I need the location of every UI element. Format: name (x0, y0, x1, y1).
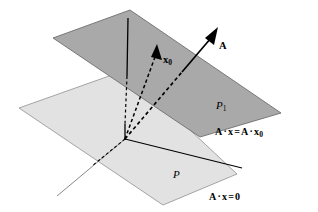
equation-term-zero: 0 (235, 191, 240, 202)
lower-plane-label: P (173, 169, 180, 180)
upper-plane-label-main: P (216, 99, 223, 111)
equation-equals-1: = (233, 126, 241, 137)
origin-point (124, 138, 126, 140)
equation-term-a2: A (241, 126, 248, 137)
equation-term-x2-sub: 0 (259, 130, 263, 139)
vector-x0-label-sub: 0 (168, 58, 172, 67)
figure-canvas (0, 0, 318, 212)
upper-plane-label: P1 (216, 100, 226, 112)
hyperplane-figure: x0 A P1 P A·x=A·x0 A·x=0 (0, 0, 318, 212)
vector-a-label-main: A (219, 40, 227, 51)
equation-equals-2: = (227, 191, 235, 202)
upper-plane-equation: A·x=A·x0 (215, 127, 263, 138)
upper-plane-label-sub: 1 (223, 104, 227, 113)
lower-plane-label-main: P (173, 168, 180, 180)
vector-x0-label: x0 (163, 55, 172, 66)
lower-plane-equation: A·x=0 (209, 192, 240, 202)
vector-a-label: A (219, 41, 227, 52)
